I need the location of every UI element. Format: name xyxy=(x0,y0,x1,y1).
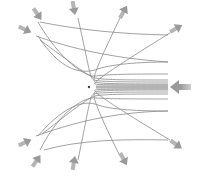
trajectory-line xyxy=(38,103,168,136)
outgoing-arrow-icon xyxy=(68,0,80,16)
outgoing-arrow-icon xyxy=(168,21,185,37)
scattering-diagram xyxy=(0,0,207,192)
trajectory-line xyxy=(95,33,170,85)
nucleus-dot xyxy=(88,86,90,88)
trajectories xyxy=(36,18,170,160)
trajectory-line xyxy=(94,90,168,156)
trajectory-line xyxy=(95,89,170,140)
outgoing-arrow-icon xyxy=(17,22,34,37)
outgoing-arrow-icon xyxy=(116,3,132,20)
outgoing-arrow-icon xyxy=(29,6,45,23)
trajectory-line xyxy=(78,92,168,160)
outgoing-arrow-icon xyxy=(17,135,34,150)
outgoing-arrows xyxy=(17,0,185,170)
trajectory-line xyxy=(40,98,168,150)
incoming-beam-arrow-icon xyxy=(170,80,191,94)
trajectory-line xyxy=(44,140,168,150)
trajectory-line xyxy=(40,22,168,35)
outgoing-arrow-icon xyxy=(168,136,185,152)
trajectory-line xyxy=(78,18,168,82)
outgoing-arrow-icon xyxy=(28,152,44,169)
trajectory-line xyxy=(38,22,168,76)
